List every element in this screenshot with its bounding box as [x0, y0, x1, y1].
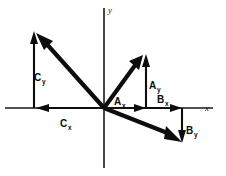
component-Bx-arrowhead-icon — [170, 104, 182, 112]
component-By-label: B — [186, 125, 193, 136]
component-Ay-subscript: y — [157, 86, 161, 94]
component-Ax-label: A — [114, 96, 121, 107]
component-Cy-label: C — [34, 72, 41, 83]
component-Bx-label: B — [157, 94, 164, 105]
vector-B-shaft — [104, 108, 170, 134]
vector-C-group: C y C x — [30, 31, 104, 131]
vector-C-shaft — [44, 41, 104, 108]
axis-group — [5, 8, 213, 168]
component-Cx-label: C — [60, 118, 67, 129]
component-Cy-subscript: y — [42, 78, 46, 86]
vector-diagram: x y C y C x A x A y — [0, 0, 226, 176]
x-axis-label: x — [204, 103, 209, 113]
component-Cx-subscript: x — [68, 124, 72, 131]
y-axis-label: y — [107, 5, 112, 15]
vector-A-group: A x A y — [104, 54, 161, 112]
component-Cy-arrowhead-icon — [30, 31, 38, 44]
component-Ay-arrowhead-icon — [142, 54, 150, 67]
component-Ay-label: A — [149, 80, 156, 91]
component-Bx-subscript: x — [165, 100, 169, 107]
component-Cx-arrowhead-icon — [36, 104, 49, 112]
component-By-subscript: y — [194, 131, 198, 139]
vector-diagram-canvas: x y C y C x A x A y — [0, 0, 226, 176]
